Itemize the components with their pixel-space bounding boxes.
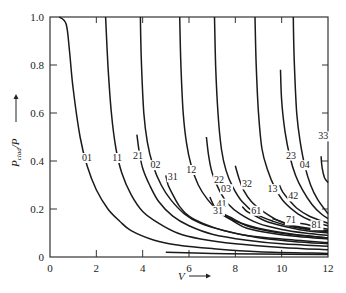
curve-label-03: 03: [221, 183, 231, 194]
x-tick-label: 10: [276, 262, 288, 274]
curve-label-04: 04: [300, 159, 310, 170]
curve-label-21: 21: [133, 150, 143, 161]
curve-label-02: 02: [150, 159, 160, 170]
curve-label-31: 31: [168, 171, 178, 182]
y-axis-title: Pclad/P: [9, 94, 23, 168]
x-axis-label: V: [178, 270, 186, 282]
curve-label-11: 11: [112, 152, 122, 163]
x-tick-label: 2: [94, 262, 100, 274]
x-tick-label: 8: [233, 262, 239, 274]
curve-label-32: 32: [242, 178, 252, 189]
curve-label-12: 12: [186, 164, 196, 175]
mode-power-chart: 01112102311241220331326113427123048133 0…: [0, 0, 346, 293]
mode-curve-04: [293, 17, 328, 214]
curve-label-61: 61: [251, 205, 261, 216]
curve-label-71: 71: [286, 214, 296, 225]
x-tick-label: 4: [140, 262, 146, 274]
curve-label-31b: 31: [213, 205, 223, 216]
mode-curve-03: [215, 17, 329, 232]
curve-label-33: 33: [318, 130, 328, 141]
curve-label-13: 13: [267, 183, 277, 194]
y-tick-label: 1.0: [30, 11, 44, 23]
x-tick-label: 12: [323, 262, 334, 274]
y-axis-label: Pclad/P: [9, 138, 23, 168]
y-tick-label: 0.6: [30, 107, 44, 119]
y-tick-label: 0.2: [30, 203, 44, 215]
x-axis-title: V: [178, 270, 211, 282]
y-tick-label: 0: [39, 251, 45, 263]
x-arrowhead-icon: [206, 274, 211, 279]
y-tick-label: 0.8: [30, 59, 44, 71]
mode-curve-33: [321, 156, 328, 182]
y-tick-label: 0.4: [30, 155, 44, 167]
y-arrowhead-icon: [14, 94, 19, 99]
x-tick-label: 6: [186, 262, 192, 274]
curve-labels: 01112102311241220331326113427123048133: [81, 130, 330, 230]
curve-label-42: 42: [288, 190, 298, 201]
curve-label-01: 01: [82, 152, 92, 163]
curve-label-81: 81: [311, 219, 321, 230]
curve-label-23: 23: [286, 150, 296, 161]
x-tick-label: 0: [47, 262, 53, 274]
